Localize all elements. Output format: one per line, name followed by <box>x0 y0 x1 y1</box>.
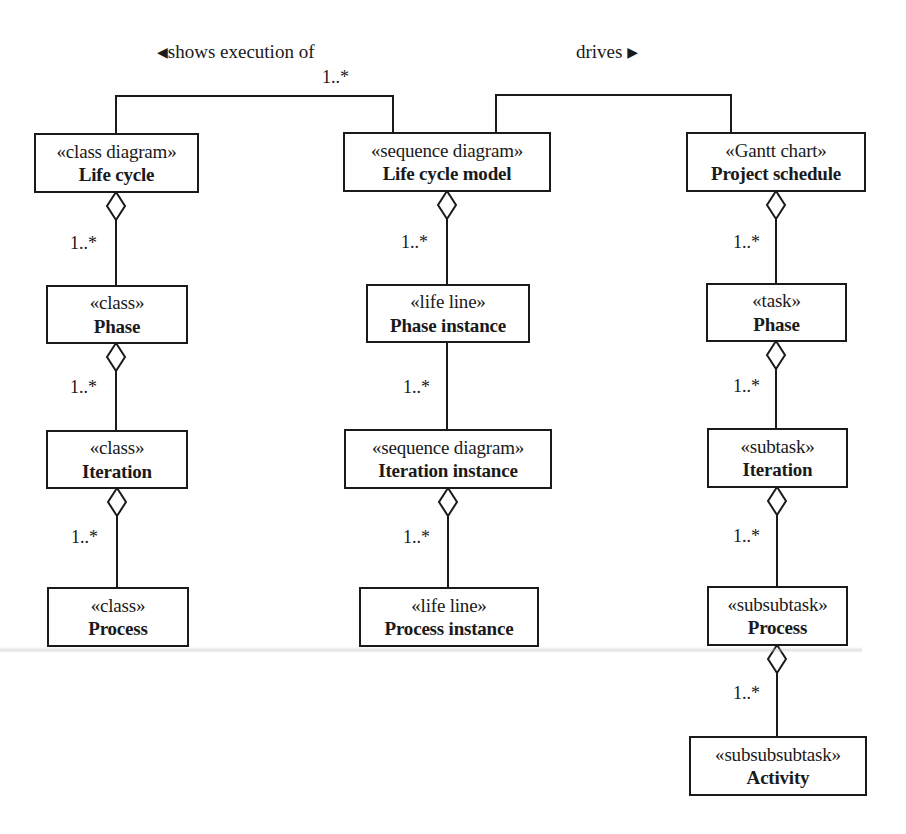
box-life-cycle[interactable]: «class diagram» Life cycle <box>34 133 199 193</box>
box-iteration-subtask[interactable]: «subtask» Iteration <box>707 428 848 488</box>
element-name: Life cycle <box>79 163 155 186</box>
multiplicity-label: 1..* <box>70 234 97 252</box>
stereotype-label: «class diagram» <box>57 140 177 163</box>
multiplicity-label: 1..* <box>322 68 349 86</box>
multiplicity-label: 1..* <box>733 684 760 702</box>
stereotype-label: «class» <box>90 291 145 314</box>
element-name: Project schedule <box>711 162 841 185</box>
scan-artifact <box>0 647 862 653</box>
multiplicity-label: 1..* <box>70 378 97 396</box>
stereotype-label: «Gantt chart» <box>725 139 826 162</box>
box-process-subsubtask[interactable]: «subsubtask» Process <box>707 586 848 646</box>
aggregation-diamond-icon <box>438 191 456 219</box>
stereotype-label: «subsubtask» <box>728 593 828 616</box>
aggregation-diamond-icon <box>107 192 125 220</box>
box-project-schedule[interactable]: «Gantt chart» Project schedule <box>686 132 866 192</box>
multiplicity-label: 1..* <box>733 377 760 395</box>
multiplicity-label: 1..* <box>71 528 98 546</box>
stereotype-label: «class» <box>91 594 146 617</box>
aggregation-diamond-icon <box>108 488 126 516</box>
right-triangle-icon: ▶ <box>627 46 638 60</box>
stereotype-label: «subsubsubtask» <box>715 743 841 766</box>
multiplicity-label: 1..* <box>403 528 430 546</box>
aggregation-diamond-icon <box>767 191 785 219</box>
box-phase-class[interactable]: «class» Phase <box>46 285 188 344</box>
box-phase-task[interactable]: «task» Phase <box>706 283 847 342</box>
stereotype-label: «life line» <box>410 290 485 313</box>
association-line-shows-execution <box>116 96 393 133</box>
stereotype-label: «life line» <box>411 594 486 617</box>
element-name: Phase <box>94 315 141 338</box>
multiplicity-label: 1..* <box>401 233 428 251</box>
box-iteration-class[interactable]: «class» Iteration <box>46 430 188 489</box>
association-label-drives: drives ▶ <box>576 42 638 61</box>
aggregation-diamond-icon <box>768 487 786 515</box>
element-name: Process instance <box>385 617 514 640</box>
stereotype-label: «task» <box>752 289 800 312</box>
left-triangle-icon: ◀ <box>157 46 168 60</box>
element-name: Process <box>88 617 147 640</box>
element-name: Iteration instance <box>378 459 517 482</box>
box-process-class[interactable]: «class» Process <box>47 587 189 647</box>
stereotype-label: «sequence diagram» <box>372 436 524 459</box>
association-text: drives <box>576 41 622 62</box>
aggregation-diamond-icon <box>767 341 785 369</box>
element-name: Phase <box>753 313 800 336</box>
multiplicity-label: 1..* <box>733 233 760 251</box>
aggregation-diamond-icon <box>439 488 457 516</box>
box-phase-instance[interactable]: «life line» Phase instance <box>366 284 530 343</box>
multiplicity-label: 1..* <box>403 378 430 396</box>
box-activity[interactable]: «subsubsubtask» Activity <box>689 736 867 796</box>
box-life-cycle-model[interactable]: «sequence diagram» Life cycle model <box>343 132 551 192</box>
element-name: Process <box>748 616 807 639</box>
box-process-instance[interactable]: «life line» Process instance <box>359 587 539 647</box>
element-name: Life cycle model <box>383 162 512 185</box>
stereotype-label: «subtask» <box>740 435 814 458</box>
multiplicity-label: 1..* <box>733 527 760 545</box>
element-name: Phase instance <box>390 314 506 337</box>
connector-layer <box>0 0 906 834</box>
stereotype-label: «class» <box>90 436 145 459</box>
association-label-shows-execution: ◀shows execution of <box>157 42 314 61</box>
element-name: Iteration <box>743 458 813 481</box>
box-iteration-instance[interactable]: «sequence diagram» Iteration instance <box>344 429 552 489</box>
association-line-drives <box>496 95 731 132</box>
element-name: Iteration <box>82 460 152 483</box>
element-name: Activity <box>747 766 810 789</box>
aggregation-diamond-icon <box>107 343 125 371</box>
stereotype-label: «sequence diagram» <box>371 139 523 162</box>
association-text: shows execution of <box>168 41 315 62</box>
